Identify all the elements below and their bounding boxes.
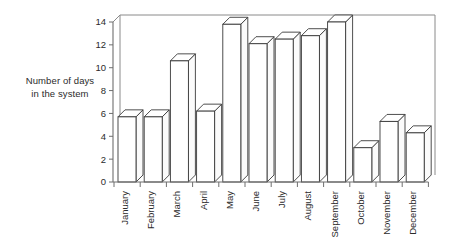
- x-axis: [113, 182, 428, 187]
- bar-february: [144, 110, 169, 182]
- x-tick-label: March: [171, 191, 182, 217]
- x-tick-label: December: [407, 191, 418, 235]
- bar-july: [275, 32, 300, 182]
- y-tick-label: 8: [101, 85, 106, 96]
- bar-march: [170, 54, 195, 182]
- bar-december: [406, 126, 431, 182]
- bar-may: [223, 17, 248, 182]
- x-tick-label: October: [355, 191, 366, 225]
- x-axis-category-labels: JanuaryFebruaryMarchAprilMayJuneJulyAugu…: [119, 191, 418, 238]
- x-tick-label: July: [276, 191, 287, 208]
- y-tick-label: 6: [101, 108, 106, 119]
- bar-august: [301, 29, 326, 182]
- y-tick-label: 12: [95, 39, 106, 50]
- bar-october: [354, 141, 379, 182]
- bars-group: [118, 15, 431, 182]
- bar-january: [118, 110, 143, 182]
- y-tick-label: 0: [101, 176, 106, 187]
- x-tick-label: September: [329, 191, 340, 237]
- x-tick-label: April: [198, 191, 209, 210]
- y-tick-label: 10: [95, 62, 106, 73]
- bar-november: [380, 114, 405, 182]
- y-axis-ticks: 02468101214: [95, 16, 113, 187]
- chart-canvas: 02468101214 JanuaryFebruaryMarchAprilMay…: [0, 0, 466, 252]
- x-tick-label: November: [381, 191, 392, 235]
- y-tick-label: 14: [95, 16, 106, 27]
- y-tick-label: 4: [101, 131, 106, 142]
- bar-june: [249, 37, 274, 182]
- x-tick-label: January: [119, 191, 130, 225]
- x-tick-label: August: [302, 191, 313, 221]
- x-tick-label: February: [145, 191, 156, 229]
- y-tick-label: 2: [101, 154, 106, 165]
- x-tick-label: May: [224, 191, 235, 209]
- bar-september: [328, 15, 353, 182]
- bar-april: [197, 104, 222, 182]
- x-tick-label: June: [250, 191, 261, 212]
- bar-chart: Number of days in the system 02468101214…: [0, 0, 466, 252]
